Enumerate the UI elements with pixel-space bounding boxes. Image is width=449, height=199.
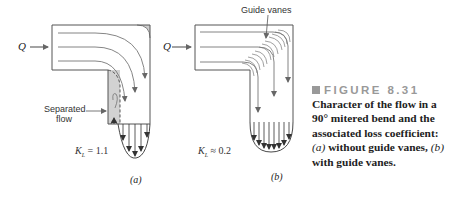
kl-symbol: K [198, 145, 205, 156]
caption-ref-b: (b) [431, 141, 444, 153]
kl-value: ≈ 0.2 [211, 145, 232, 156]
kl-subscript: L [82, 152, 85, 158]
caption-ref-a: (a) [312, 141, 325, 153]
velocity-profile-b [250, 122, 293, 152]
figure-number-text: FIGURE 8.31 [324, 84, 419, 96]
figure-caption: FIGURE 8.31 Character of the flow in a 9… [312, 83, 449, 169]
separated-flow-region [108, 70, 120, 124]
flow-rate-label-a: Q [18, 40, 26, 52]
square-bullet-icon [312, 86, 320, 94]
loss-coefficient-a: KL = 1.1 [75, 145, 108, 158]
panel-a-sublabel: (a) [130, 174, 142, 185]
caption-text-2: without guide vanes, [325, 141, 430, 153]
figure-number: FIGURE 8.31 [312, 83, 449, 97]
separated-flow-label-line1: Separated [44, 104, 86, 114]
kl-subscript: L [205, 152, 208, 158]
panel-b-sublabel: (b) [271, 171, 283, 182]
bend-outline-b [195, 25, 293, 122]
guide-vanes-label: Guide vanes [241, 5, 292, 15]
caption-text-3: with guide vanes. [312, 156, 396, 168]
separated-flow-label-line2: flow [56, 114, 72, 124]
flow-rate-label-b: Q [163, 40, 171, 52]
caption-text-1: Character of the flow in a 90° mitered b… [312, 98, 439, 139]
kl-value: = 1.1 [88, 145, 109, 156]
panel-a-diagram [30, 25, 150, 158]
panel-b-diagram [172, 15, 293, 152]
loss-coefficient-b: KL ≈ 0.2 [198, 145, 231, 158]
kl-symbol: K [75, 145, 82, 156]
